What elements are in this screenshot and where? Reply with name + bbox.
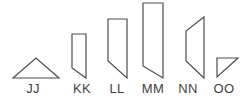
shape-label-ll: LL [109,81,124,96]
shape-group-oo: OO [214,58,238,96]
shape-kk-bar [72,34,86,78]
shape-label-nn: NN [178,81,197,96]
shape-label-jj: JJ [26,81,40,96]
shape-group-ll: LL [108,19,127,96]
shape-mm-bar [143,3,163,78]
shape-group-mm: MM [142,3,164,96]
shape-oo-triangle [217,58,238,77]
shape-label-kk: KK [73,81,91,96]
shape-label-oo: OO [214,81,235,96]
shape-group-kk: KK [72,34,91,96]
shapes-canvas: JJ KK LL MM NN OO [0,0,244,98]
shape-group-nn: NN [178,17,204,96]
shape-jj-triangle [13,58,59,78]
shape-group-jj: JJ [13,58,59,96]
shape-nn-trapezoid [186,17,204,78]
shape-series-figure: JJ KK LL MM NN OO [0,0,244,98]
shape-label-mm: MM [142,81,164,96]
shape-ll-bar [108,19,127,78]
